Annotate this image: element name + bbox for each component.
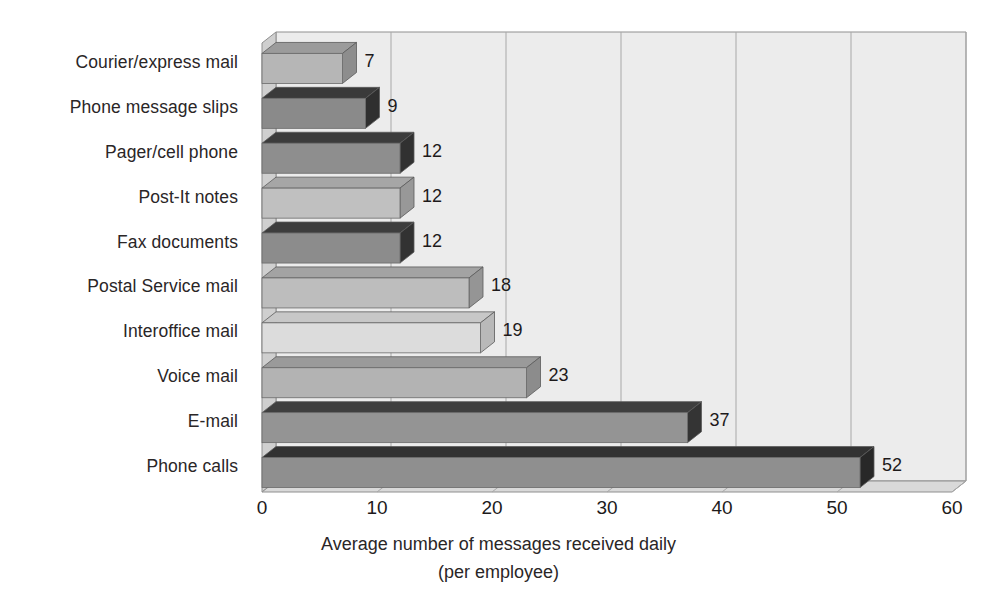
bar-1 [262, 87, 380, 128]
x-tick-50: 50 [814, 497, 860, 519]
bar-front-face-1 [262, 98, 366, 128]
x-axis-title-line1: Average number of messages received dail… [0, 534, 997, 555]
value-label-7: 23 [549, 365, 569, 386]
bar-top-face-2 [262, 132, 414, 143]
bar-top-face-8 [262, 402, 702, 413]
bar-front-face-5 [262, 278, 469, 308]
bar-9 [262, 447, 874, 488]
bar-8 [262, 402, 702, 443]
value-label-0: 7 [365, 51, 375, 72]
value-label-2: 12 [422, 141, 442, 162]
x-tick-40: 40 [699, 497, 745, 519]
x-tick-0: 0 [239, 497, 285, 519]
bar-top-face-0 [262, 42, 357, 53]
bar-front-face-8 [262, 413, 688, 443]
x-tick-60: 60 [929, 497, 975, 519]
x-tick-30: 30 [584, 497, 630, 519]
bar-4 [262, 222, 414, 263]
bar-top-face-3 [262, 177, 414, 188]
bar-front-face-6 [262, 323, 481, 353]
bar-front-face-9 [262, 458, 860, 488]
bar-top-face-1 [262, 87, 380, 98]
x-tick-10: 10 [354, 497, 400, 519]
bar-top-face-9 [262, 447, 874, 458]
bar-top-face-5 [262, 267, 483, 278]
bar-6 [262, 312, 495, 353]
value-label-5: 18 [491, 275, 511, 296]
value-label-3: 12 [422, 186, 442, 207]
bar-front-face-2 [262, 143, 400, 173]
bar-5 [262, 267, 483, 308]
bar-front-face-4 [262, 233, 400, 263]
value-label-4: 12 [422, 231, 442, 252]
x-tick-20: 20 [469, 497, 515, 519]
value-label-6: 19 [503, 320, 523, 341]
bar-7 [262, 357, 541, 398]
bar-top-face-4 [262, 222, 414, 233]
x-axis-title-line2: (per employee) [0, 562, 997, 583]
value-label-8: 37 [710, 410, 730, 431]
bar-top-face-7 [262, 357, 541, 368]
bar-0 [262, 42, 357, 83]
bar-front-face-3 [262, 188, 400, 218]
bar-front-face-7 [262, 368, 527, 398]
bar-chart: Courier/express mailPhone message slipsP… [0, 0, 997, 606]
bar-3 [262, 177, 414, 218]
bar-front-face-0 [262, 53, 343, 83]
bar-top-face-6 [262, 312, 495, 323]
bar-2 [262, 132, 414, 173]
value-label-9: 52 [882, 455, 902, 476]
value-label-1: 9 [388, 96, 398, 117]
